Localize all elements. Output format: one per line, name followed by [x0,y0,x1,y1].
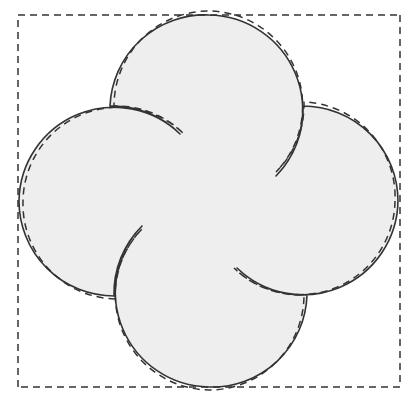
dissection-figure: Pinwheel dissection of a curved square [0,0,416,404]
diagram-canvas: Pinwheel dissection of a curved square [0,0,416,404]
